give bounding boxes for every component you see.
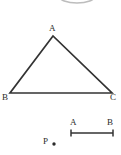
- segment-endpoint-label-b: B: [107, 118, 113, 127]
- ellipse-arc-clipped-icon: [59, 0, 95, 3]
- point-p-label: P: [43, 137, 48, 146]
- segment-ab-group: [71, 130, 113, 137]
- triangle-abc-shape: [10, 36, 112, 93]
- triangle-vertex-label-a: A: [49, 24, 56, 33]
- point-p-dot-marker: [52, 142, 55, 145]
- geometry-figure-canvas: A B C A B P: [0, 0, 121, 155]
- triangle-vertex-label-c: C: [110, 93, 116, 102]
- figure-vector-layer: [0, 0, 121, 155]
- segment-endpoint-label-a: A: [70, 118, 77, 127]
- triangle-vertex-label-b: B: [2, 93, 8, 102]
